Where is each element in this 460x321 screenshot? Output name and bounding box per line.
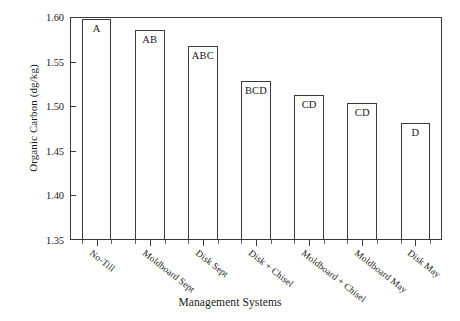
- x-category-label: Disk Sept: [194, 248, 230, 279]
- x-tick-mark: [415, 240, 416, 246]
- x-tick-mark: [256, 240, 257, 246]
- bar: AB: [135, 30, 165, 240]
- x-tick-minor: [111, 240, 112, 244]
- y-tick-label: 1.40: [30, 190, 64, 201]
- bar-significance-label: CD: [348, 107, 376, 118]
- bar: ABC: [188, 46, 218, 240]
- x-tick-minor: [347, 240, 348, 244]
- bar: A: [82, 19, 112, 240]
- x-tick-mark: [97, 240, 98, 246]
- bar: CD: [347, 103, 377, 240]
- x-tick-minor: [401, 240, 402, 244]
- y-tick-label: 1.55: [30, 56, 64, 67]
- x-tick-minor: [430, 240, 431, 244]
- y-tick-mark: [70, 151, 76, 152]
- x-tick-minor: [271, 240, 272, 244]
- bar-significance-label: CD: [295, 99, 323, 110]
- y-tick-label: 1.60: [30, 12, 64, 23]
- organic-carbon-bar-chart: Organic Carbon (dg/kg) Management System…: [0, 0, 460, 321]
- x-tick-minor: [82, 240, 83, 244]
- x-category-label: Moldboard Sept: [141, 248, 197, 295]
- bar-significance-label: A: [83, 23, 111, 34]
- x-category-label: Moldboard May: [353, 248, 409, 295]
- y-tick-mark: [70, 106, 76, 107]
- y-tick-label: 1.50: [30, 101, 64, 112]
- y-tick-label: 1.45: [30, 145, 64, 156]
- x-tick-mark: [309, 240, 310, 246]
- x-tick-minor: [294, 240, 295, 244]
- bar: D: [401, 123, 431, 240]
- bar-significance-label: BCD: [242, 85, 270, 96]
- x-tick-minor: [188, 240, 189, 244]
- x-tick-minor: [135, 240, 136, 244]
- y-tick-mark: [70, 195, 76, 196]
- x-tick-minor: [165, 240, 166, 244]
- x-category-label: No-Till: [87, 248, 116, 274]
- x-axis-title: Management Systems: [0, 296, 460, 308]
- x-tick-mark: [203, 240, 204, 246]
- x-tick-minor: [241, 240, 242, 244]
- x-tick-mark: [150, 240, 151, 246]
- x-category-label: Disk + Chisel: [247, 248, 295, 289]
- bar-significance-label: AB: [136, 34, 164, 45]
- x-category-label: Disk May: [406, 248, 443, 280]
- bar-significance-label: D: [402, 127, 430, 138]
- bar-significance-label: ABC: [189, 50, 217, 61]
- x-tick-minor: [324, 240, 325, 244]
- x-tick-minor: [218, 240, 219, 244]
- y-tick-mark: [70, 62, 76, 63]
- x-tick-minor: [377, 240, 378, 244]
- bar: CD: [294, 95, 324, 240]
- y-tick-label: 1.35: [30, 235, 64, 246]
- x-tick-mark: [362, 240, 363, 246]
- bar: BCD: [241, 81, 271, 240]
